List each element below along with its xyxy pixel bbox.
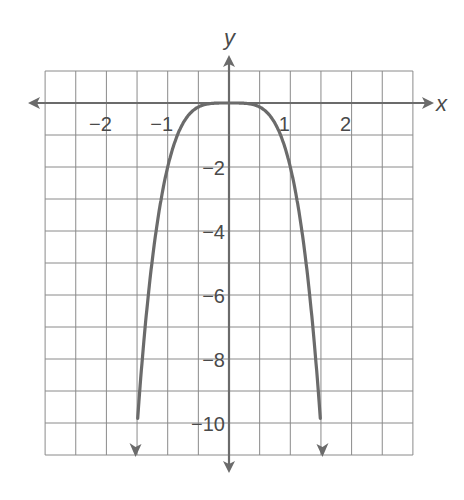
y-tick-label: −6 — [202, 285, 225, 307]
tick-labels: −2−112−2−4−6−8−10 — [89, 113, 351, 435]
x-tick-label: −1 — [150, 113, 173, 135]
y-tick-label: −4 — [202, 221, 225, 243]
y-axis-label: y — [222, 25, 237, 50]
y-tick-label: −2 — [202, 157, 225, 179]
function-graph: −2−112−2−4−6−8−10 x y — [0, 0, 464, 500]
x-tick-label: −2 — [89, 113, 112, 135]
y-tick-label: −8 — [202, 349, 225, 371]
y-tick-label: −10 — [191, 413, 225, 435]
x-axis-label: x — [435, 91, 448, 116]
x-tick-label: 2 — [340, 113, 351, 135]
